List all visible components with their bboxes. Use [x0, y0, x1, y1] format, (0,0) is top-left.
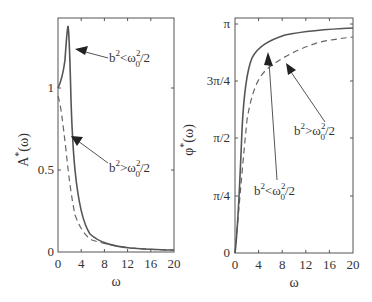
- right-xtick-8: 8: [279, 257, 286, 272]
- left-xtick-4: 4: [78, 256, 85, 271]
- right-ylabel-arg: (ω): [181, 124, 197, 143]
- right-plot: 0 4 8 12 16 20 π 3π/4 π/2 π/4 0 ω φ*(ω) …: [178, 16, 360, 290]
- right-ytick-pi: π: [223, 16, 230, 31]
- right-ylabel-main: φ: [181, 148, 196, 156]
- svg-text:A*(ω): A*(ω): [13, 133, 32, 167]
- right-ytick-0: 0: [224, 245, 231, 260]
- left-ytick-0: 0: [48, 244, 55, 259]
- right-solid-curve: [235, 28, 353, 253]
- right-xtick-0: 0: [232, 257, 239, 272]
- left-ytick-1: 1: [48, 80, 55, 95]
- figure: 0 4 8 12 16 20 1 0.5 0 ω A*(ω) b2<ω20/2 …: [0, 0, 372, 302]
- right-ylabel: φ*(ω): [178, 124, 197, 156]
- right-ytick-pi2: π/2: [213, 130, 230, 145]
- left-xlabel: ω: [111, 274, 120, 289]
- left-arrowhead-1: [75, 46, 88, 55]
- right-ytick-pi4: π/4: [213, 188, 230, 203]
- right-arrowhead-2: [264, 52, 273, 66]
- right-ytick-3pi4: 3π/4: [207, 73, 231, 88]
- right-arrow-2: [269, 62, 277, 180]
- right-arrow-1: [291, 72, 325, 122]
- right-xtick-12: 12: [299, 257, 312, 272]
- left-annotation-1: b2<ω20/2: [109, 48, 150, 69]
- right-annotation-2: b2<ω20/2: [254, 181, 295, 202]
- left-xtick-8: 8: [101, 256, 108, 271]
- left-xtick-20: 20: [168, 256, 181, 271]
- right-xlabel: ω: [289, 275, 298, 290]
- svg-text:φ*(ω): φ*(ω): [178, 124, 197, 156]
- left-xtick-0: 0: [55, 256, 62, 271]
- right-xtick-16: 16: [323, 257, 337, 272]
- left-annotation-2: b2>ω20/2: [109, 158, 150, 179]
- left-ytick-0.5: 0.5: [38, 162, 54, 177]
- right-xtick-20: 20: [347, 257, 360, 272]
- left-xtick-12: 12: [121, 256, 134, 271]
- left-ylabel-arg: (ω): [16, 133, 32, 152]
- left-arrow-2: [78, 141, 108, 163]
- left-ylabel: A*(ω): [13, 133, 32, 167]
- right-xtick-4: 4: [255, 257, 262, 272]
- left-xtick-16: 16: [144, 256, 158, 271]
- right-annotation-1: b2>ω20/2: [294, 121, 335, 142]
- left-plot: 0 4 8 12 16 20 1 0.5 0 ω A*(ω) b2<ω20/2 …: [13, 18, 181, 289]
- right-arrowhead-1: [286, 63, 296, 75]
